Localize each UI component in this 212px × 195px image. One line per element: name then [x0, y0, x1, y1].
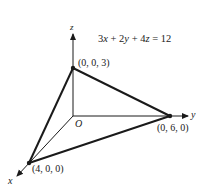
point-x-intercept	[27, 161, 31, 165]
eq-rhs: = 12	[150, 33, 172, 44]
z-intercept-label: (0, 0, 3)	[78, 57, 110, 69]
plane-equation: 3x + 2y + 4z = 12	[98, 33, 171, 44]
x-axis-label: x	[7, 175, 13, 186]
edge-z-to-y	[73, 68, 170, 116]
z-axis-label: z	[69, 22, 74, 32]
plane-intercept-diagram: z y x O (0, 0, 3) (0, 6, 0) (4, 0, 0) 3x…	[0, 0, 212, 195]
point-z-intercept	[71, 66, 75, 70]
edge-x-to-y	[29, 116, 170, 163]
origin-label: O	[75, 118, 82, 129]
x-intercept-label: (4, 0, 0)	[32, 163, 64, 175]
y-intercept-label: (0, 6, 0)	[157, 122, 189, 134]
eq-coef-z: + 4	[129, 33, 146, 44]
edge-x-to-z	[29, 68, 73, 163]
y-axis-label: y	[190, 109, 196, 120]
eq-coef-y: + 2	[108, 33, 124, 44]
point-y-intercept	[168, 114, 172, 118]
